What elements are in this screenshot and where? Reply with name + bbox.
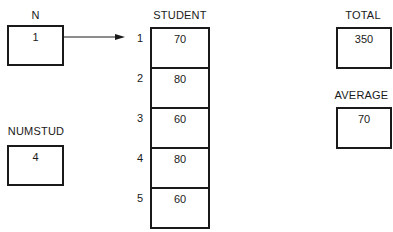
student-value-1: 70 (152, 33, 208, 45)
student-value-5: 60 (152, 193, 208, 205)
student-index-4: 4 (134, 152, 146, 164)
student-cell: 70 (152, 29, 208, 69)
student-cell: 60 (152, 109, 208, 149)
numstud-label: NUMSTUD (4, 125, 68, 137)
total-value: 350 (338, 33, 390, 45)
student-array: 70 80 60 80 60 (150, 27, 210, 229)
student-label: STUDENT (145, 9, 215, 21)
student-index-3: 3 (134, 112, 146, 124)
student-value-4: 80 (152, 153, 208, 165)
student-index-5: 5 (134, 192, 146, 204)
student-value-2: 80 (152, 73, 208, 85)
student-index-1: 1 (134, 32, 146, 44)
average-box: 70 (336, 107, 392, 149)
student-cell: 80 (152, 69, 208, 109)
student-index-2: 2 (134, 72, 146, 84)
student-cell: 60 (152, 189, 208, 229)
average-label: AVERAGE (330, 89, 393, 101)
numstud-box: 4 (7, 145, 64, 186)
student-cell: 80 (152, 149, 208, 189)
total-box: 350 (336, 27, 392, 69)
numstud-value: 4 (9, 151, 62, 163)
total-label: TOTAL (334, 9, 392, 21)
average-value: 70 (338, 113, 390, 125)
student-value-3: 60 (152, 113, 208, 125)
